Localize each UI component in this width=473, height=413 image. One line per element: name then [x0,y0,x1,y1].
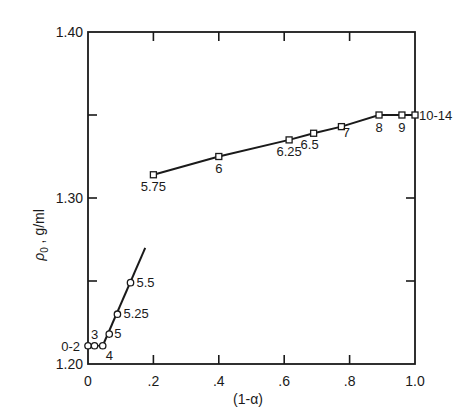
y-tick-label: 1.20 [56,356,83,372]
data-point-marker [91,343,97,349]
y-axis-title: ρ0 , g/ml [31,209,50,262]
x-axis-title: (1-α) [233,391,263,407]
x-tick-label: .6 [278,373,290,389]
density-chart: 0.2.4.6.81.01.201.301.40 0-23455.255.55.… [0,0,473,413]
data-point-label: 3 [91,327,98,342]
point-labels: 0-23455.255.55.7566.256.578910-14 [61,108,452,363]
data-point-label: 5 [114,326,121,341]
data-point-marker [85,343,91,349]
data-point-label: 6.25 [276,144,301,159]
data-point-marker [286,137,292,143]
data-point-label: 7 [343,125,350,140]
x-tick-label: 0 [84,373,92,389]
data-point-marker [311,130,317,136]
svg-text:ρ0 , g/ml: ρ0 , g/ml [31,209,50,262]
data-point-label: 10-14 [419,108,452,123]
x-tick-label: .2 [148,373,160,389]
data-point-marker [150,172,156,178]
data-point-label: 9 [398,120,405,135]
y-tick-label: 1.40 [56,24,83,40]
data-point-marker [106,331,112,337]
data-point-label: 6.5 [301,137,319,152]
data-point-marker [412,112,418,118]
y-tick-label: 1.30 [56,190,83,206]
x-tick-label: .4 [213,373,225,389]
data-point-marker [376,112,382,118]
y-axis-title-units: , g/ml [31,209,47,247]
data-point-marker [399,112,405,118]
data-point-marker [114,311,120,317]
data-point-label: 5.5 [137,275,155,290]
data-point-label: 8 [375,120,382,135]
data-point-marker [127,279,133,285]
data-point-label: 6 [215,161,222,176]
y-axis-title-rho: ρ [31,253,47,262]
data-point-label: 5.75 [141,179,166,194]
x-tick-label: .8 [344,373,356,389]
data-point-label: 0-2 [61,339,80,354]
data-point-label: 4 [106,348,113,363]
data-point-label: 5.25 [123,306,148,321]
data-point-marker [216,154,222,160]
x-tick-label: 1.0 [405,373,425,389]
